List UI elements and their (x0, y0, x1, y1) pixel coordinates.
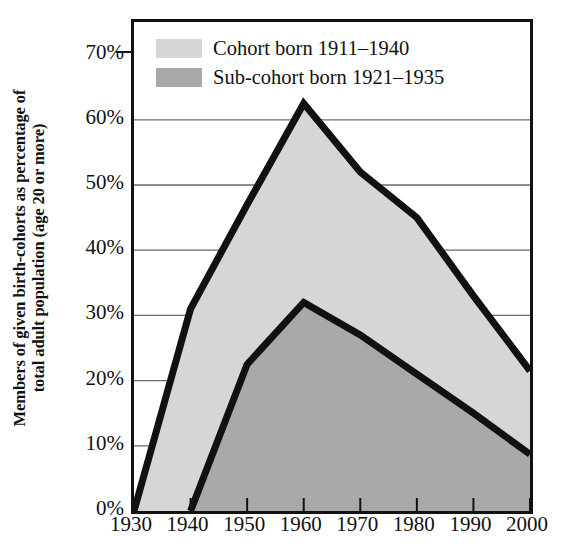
x-tick-label: 1930 (110, 512, 152, 537)
y-axis-title: Members of given birth-cohorts as percen… (0, 0, 58, 520)
y-axis-title-line-1: Members of given birth-cohorts as percen… (10, 90, 29, 427)
x-tick-label: 1950 (223, 512, 265, 537)
x-tick-label: 1990 (449, 512, 491, 537)
legend-item-subcohort: Sub-cohort born 1921–1935 (156, 63, 496, 92)
y-tick-label: 10% (60, 430, 124, 455)
x-tick-label: 2000 (506, 512, 548, 537)
x-tick-label: 1970 (336, 512, 378, 537)
legend-swatch-cohort (156, 39, 202, 58)
x-tick-label: 1960 (280, 512, 322, 537)
y-tick-label: 70% (60, 39, 124, 64)
chart-canvas (134, 22, 530, 511)
legend-label-subcohort: Sub-cohort born 1921–1935 (213, 67, 444, 88)
y-axis-tick-labels: 0%10%20%30%40%50%60%70% (58, 0, 124, 557)
y-tick-label: 40% (60, 235, 124, 260)
legend-swatch-subcohort (156, 68, 202, 87)
y-axis-title-line-2: total adult population (age 20 or more) (29, 124, 48, 393)
y-tick-label: 20% (60, 365, 124, 390)
x-axis-tick-labels: 19301940195019601970198019902000 (0, 512, 573, 556)
chart-legend: Cohort born 1911–1940 Sub-cohort born 19… (156, 34, 496, 92)
y-tick-label: 50% (60, 170, 124, 195)
legend-item-cohort: Cohort born 1911–1940 (156, 34, 496, 63)
x-tick-label: 1940 (167, 512, 209, 537)
y-tick-label: 60% (60, 104, 124, 129)
plot-area: Cohort born 1911–1940 Sub-cohort born 19… (131, 19, 533, 514)
chart-figure: Members of given birth-cohorts as percen… (0, 0, 573, 557)
x-tick-label: 1980 (393, 512, 435, 537)
legend-label-cohort: Cohort born 1911–1940 (213, 38, 409, 59)
y-tick-mark (116, 51, 131, 53)
y-tick-label: 30% (60, 300, 124, 325)
